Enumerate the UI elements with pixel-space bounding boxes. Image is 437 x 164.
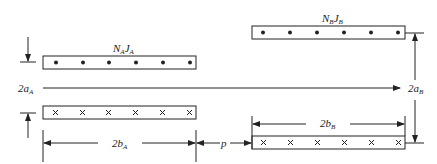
dim-2bB: 2bB xyxy=(320,117,336,131)
dim-2aA: 2aA xyxy=(18,82,34,96)
coil-a-top xyxy=(43,56,196,69)
dim-2bA: 2bA xyxy=(112,137,128,151)
dim-2aB: 2aB xyxy=(408,82,424,96)
coil-diagram: NAJA NBJB 2aA 2aB xyxy=(0,0,437,164)
coil-b-top xyxy=(252,26,405,39)
coil-a-label: NAJA xyxy=(112,42,135,56)
coil-b-label: NBJB xyxy=(321,12,344,26)
coil-a-bottom xyxy=(43,106,196,119)
dim-gap: p xyxy=(220,137,227,149)
coil-b-bottom xyxy=(252,136,405,149)
